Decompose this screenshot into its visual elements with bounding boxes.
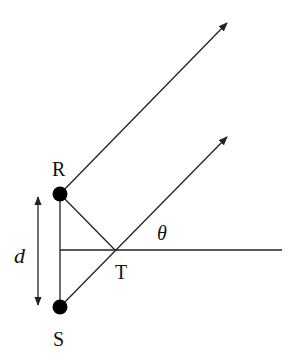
label-t: T bbox=[115, 261, 127, 283]
label-theta: θ bbox=[157, 222, 167, 244]
ray-from-s bbox=[60, 137, 227, 307]
line-rt bbox=[60, 194, 115, 250]
label-r: R bbox=[52, 158, 66, 180]
ray-from-r bbox=[60, 23, 227, 194]
interference-diagram: R S T d θ bbox=[0, 0, 296, 360]
source-r-point bbox=[53, 187, 68, 202]
label-d: d bbox=[14, 243, 26, 268]
label-s: S bbox=[53, 328, 64, 350]
source-s-point bbox=[53, 300, 68, 315]
